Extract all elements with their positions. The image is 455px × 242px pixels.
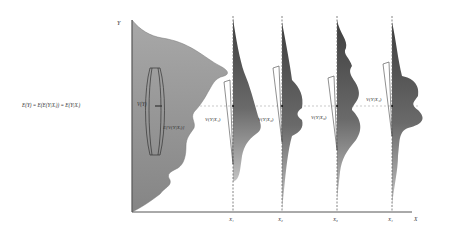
conditional-density-2: V(Y|X₂) X₂ <box>258 16 303 222</box>
conditional-variance-label-2: V(Y|X₂) <box>258 117 274 122</box>
conditional-variance-label-1: V(Y|X₁) <box>205 117 221 122</box>
x-tick-label-2: X₂ <box>277 217 283 222</box>
mean-label: E(Y) = E(E(Y|Xᵢ)) = E(Y|Xᵢ) <box>21 102 80 109</box>
y-axis-label: Y <box>117 20 121 26</box>
conditional-density-1: V(Y|X₁) X₁ <box>205 16 261 222</box>
x-tick-label-1: X₁ <box>228 217 234 222</box>
variance-diagram: Y E(Y) = E(E(Y|Xᵢ)) = E(Y|Xᵢ) V(Y) E[V(Y… <box>0 0 455 242</box>
marginal-variance-label: V(Y) <box>137 101 147 108</box>
expected-conditional-variance-label: E[V(Y|Xᵢ)] <box>162 125 184 130</box>
conditional-density-4: V(Y|X₄) X₄ <box>366 16 423 222</box>
conditional-density-3: V(Y|X₃) X₃ <box>311 16 360 222</box>
x-tick-label-3: X₃ <box>332 217 338 222</box>
conditional-variance-label-3: V(Y|X₃) <box>311 115 327 120</box>
x-axis-label: X <box>413 216 418 222</box>
conditional-variance-label-4: V(Y|X₄) <box>366 97 382 102</box>
x-tick-label-4: X₄ <box>387 217 393 222</box>
marginal-density <box>132 20 227 212</box>
